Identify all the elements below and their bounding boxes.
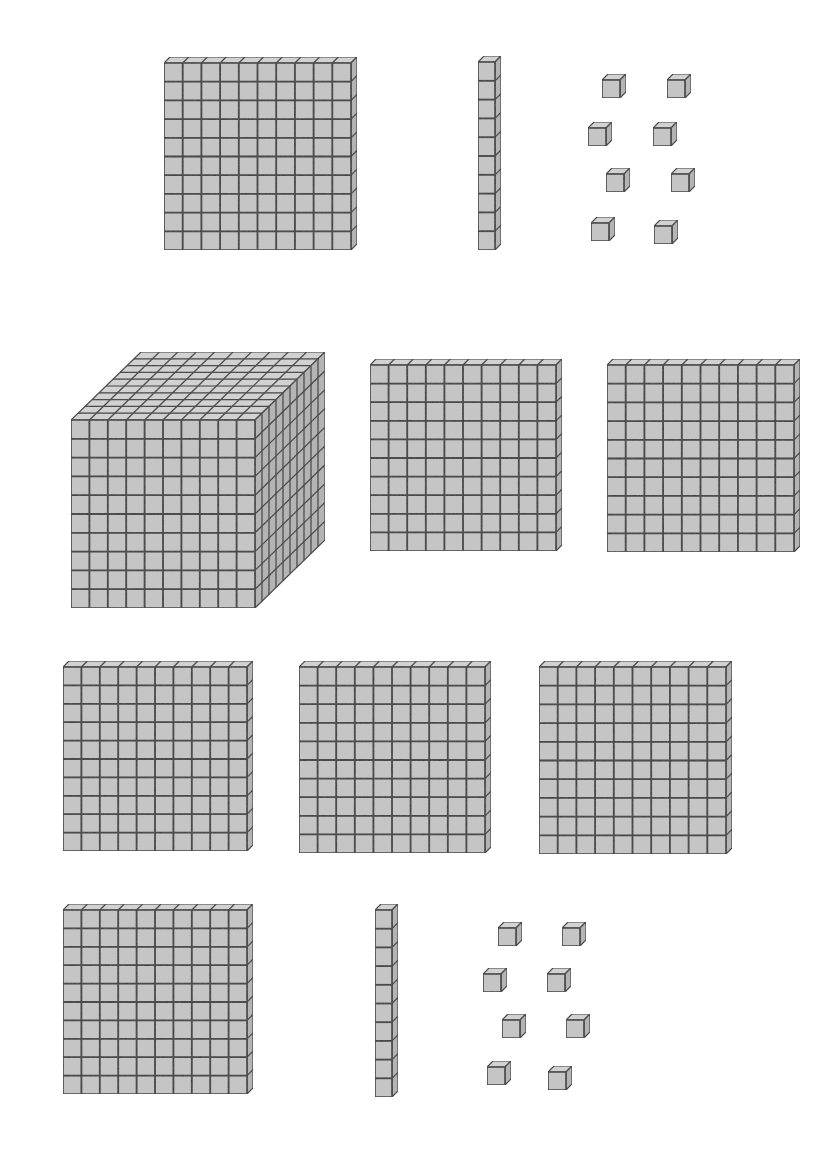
unit-cube-block (498, 922, 522, 946)
unit-cube-block (602, 74, 626, 98)
hundred-flat-block (607, 359, 800, 552)
ten-rod-block (478, 56, 501, 250)
unit-cube-block (606, 168, 630, 192)
unit-cube-block (487, 1061, 511, 1085)
thousand-cube-block (71, 352, 325, 608)
unit-cube-block (591, 217, 615, 241)
hundred-flat-block (164, 57, 357, 250)
unit-cube-block (566, 1014, 590, 1038)
base-ten-blocks-diagram (0, 0, 834, 1158)
hundred-flat-block (299, 661, 491, 853)
bottom-group-blocks (63, 352, 800, 1097)
hundred-flat-block (63, 661, 253, 851)
unit-cube-block (653, 122, 677, 146)
unit-cube-block (562, 922, 586, 946)
unit-cube-block (502, 1014, 526, 1038)
ten-rod-block (375, 904, 398, 1097)
top-group-blocks (164, 56, 695, 250)
hundred-flat-block (370, 359, 562, 551)
unit-cube-block (654, 220, 678, 244)
hundred-flat-block (539, 661, 732, 854)
unit-cube-block (667, 74, 691, 98)
unit-cube-block (671, 168, 695, 192)
unit-cube-block (588, 122, 612, 146)
unit-cube-block (547, 968, 571, 992)
unit-cube-block (483, 968, 507, 992)
unit-cube-block (548, 1066, 572, 1090)
hundred-flat-block (63, 904, 253, 1094)
